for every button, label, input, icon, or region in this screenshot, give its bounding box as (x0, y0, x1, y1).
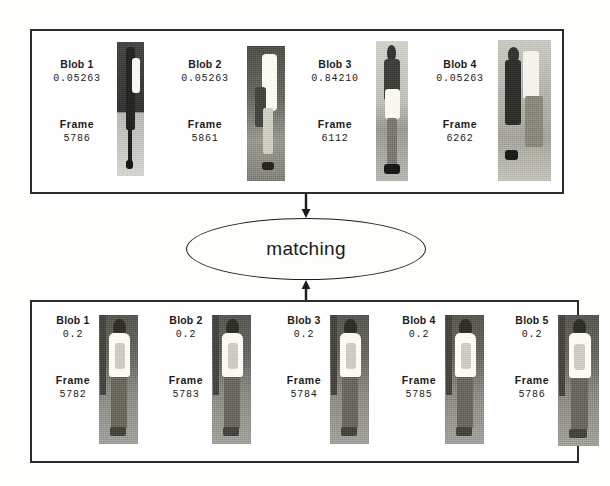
frame-number: 6262 (423, 133, 497, 144)
blob-title: Blob 4 (423, 58, 497, 70)
blob-title: Blob 3 (298, 58, 372, 70)
blob-thumbnail[interactable] (445, 315, 484, 444)
blob-cell[interactable]: Blob 4 0.05263 Frame 6262 (423, 31, 558, 192)
blob-thumbnail[interactable] (498, 40, 551, 181)
blob-cell[interactable]: Blob 4 0.2 Frame 5785 (382, 302, 492, 461)
blob-label-group: Blob 1 0.05263 Frame 5786 (40, 58, 114, 144)
blob-thumbnail[interactable] (212, 315, 251, 444)
matching-node[interactable]: matching (186, 218, 426, 280)
diagram-canvas: Blob 1 0.05263 Frame 5786 Blob 2 0.05263… (0, 0, 610, 486)
blob-cell[interactable]: Blob 1 0.05263 Frame 5786 (38, 31, 156, 192)
blob-thumbnail[interactable] (558, 315, 599, 446)
frame-number: 5861 (168, 133, 242, 144)
blob-cell[interactable]: Blob 2 0.05263 Frame 5861 (166, 31, 288, 192)
blob-cell[interactable]: Blob 2 0.2 Frame 5783 (149, 302, 259, 461)
blob-label-group: Blob 2 0.05263 Frame 5861 (168, 58, 242, 144)
frame-label: Frame (168, 118, 242, 130)
frame-number: 6112 (298, 133, 372, 144)
blob-title: Blob 2 (168, 58, 242, 70)
blob-thumbnail[interactable] (117, 42, 144, 176)
blob-score: 0.05263 (423, 73, 497, 84)
frame-number: 5786 (40, 133, 114, 144)
blob-thumbnail[interactable] (330, 315, 369, 444)
matching-label: matching (186, 218, 426, 280)
frame-label: Frame (40, 118, 114, 130)
blob-score: 0.05263 (40, 73, 114, 84)
blob-title: Blob 1 (40, 58, 114, 70)
arrow-down-icon (301, 194, 311, 218)
blob-thumbnail[interactable] (247, 46, 285, 181)
candidate-track-panel: Blob 1 0.05263 Frame 5786 Blob 2 0.05263… (30, 29, 564, 194)
frame-label: Frame (423, 118, 497, 130)
blob-cell[interactable]: Blob 3 0.84210 Frame 6112 (298, 31, 418, 192)
frame-label: Frame (298, 118, 372, 130)
blob-thumbnail[interactable] (99, 315, 138, 444)
blob-label-group: Blob 3 0.84210 Frame 6112 (298, 58, 372, 144)
blob-cell[interactable]: Blob 1 0.2 Frame 5782 (36, 302, 146, 461)
query-track-panel: Blob 1 0.2 Frame 5782 Blob 2 0.2 Frame 5… (30, 300, 579, 463)
blob-score: 0.05263 (168, 73, 242, 84)
blob-thumbnail[interactable] (376, 41, 408, 181)
blob-score: 0.84210 (298, 73, 372, 84)
blob-cell[interactable]: Blob 3 0.2 Frame 5784 (267, 302, 377, 461)
blob-cell[interactable]: Blob 5 0.2 Frame 5786 (495, 302, 605, 461)
blob-label-group: Blob 4 0.05263 Frame 6262 (423, 58, 497, 144)
